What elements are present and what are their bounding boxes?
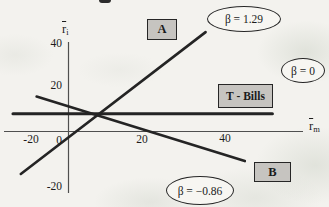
tbills-label-box: T - Bills	[218, 84, 273, 108]
stock-a-label: A	[157, 22, 166, 37]
x-axis-label: rm	[309, 120, 320, 133]
beta-a-callout: β = 1.29	[207, 6, 281, 32]
y-tick-20: 20	[34, 80, 62, 92]
figure-beta-regression-chart: ri rm 40 20 -20 0 -20 20 40 A β = 1.29 β…	[0, 0, 329, 207]
y-axis-label: ri	[62, 23, 69, 36]
beta-tbills-value: β = 0	[291, 65, 315, 77]
series-line-stock-a	[21, 32, 206, 174]
stock-b-label-box: B	[254, 162, 291, 182]
y-tick-40: 40	[34, 38, 62, 50]
beta-b-value: β = −0.86	[178, 185, 223, 197]
x-tick-40: 40	[214, 133, 236, 145]
stock-b-label: B	[268, 165, 276, 180]
beta-b-callout: β = −0.86	[166, 176, 234, 205]
x-axis-label-subscript: m	[313, 124, 320, 134]
y-tick-neg20: -20	[34, 181, 62, 193]
stock-a-label-box: A	[147, 19, 177, 40]
origin-tick: 0	[50, 135, 62, 147]
series-line-stock-b	[37, 97, 245, 162]
beta-a-value: β = 1.29	[225, 13, 263, 25]
x-tick-20: 20	[131, 134, 153, 146]
y-axis-label-subscript: i	[66, 27, 68, 37]
beta-tbills-callout: β = 0	[281, 58, 325, 83]
tbills-label: T - Bills	[226, 90, 265, 102]
x-tick-neg20: -20	[18, 134, 44, 146]
